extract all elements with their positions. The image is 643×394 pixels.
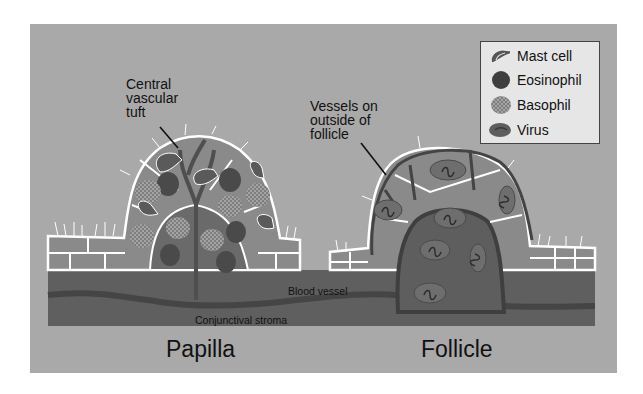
legend-item-basophil: Basophil: [489, 94, 571, 116]
legend-label: Eosinophil: [517, 72, 582, 88]
legend-item-mast-cell: Mast cell: [489, 45, 572, 67]
virus-icon: [489, 120, 513, 140]
legend: Mast cell Eosinophil Basophil Virus: [480, 41, 600, 144]
legend-item-eosinophil: Eosinophil: [489, 69, 582, 91]
legend-item-virus: Virus: [489, 119, 549, 141]
mast-cell-icon: [489, 46, 513, 66]
blood-vessel-label: Blood vessel: [288, 286, 348, 297]
eosinophil-icon: [489, 70, 513, 90]
legend-label: Virus: [517, 122, 549, 138]
central-vascular-tuft-label: Central vascular tuft: [126, 77, 178, 119]
papilla-label: Papilla: [166, 338, 235, 361]
legend-label: Basophil: [517, 97, 571, 113]
legend-label: Mast cell: [517, 48, 572, 64]
vessels-outside-follicle-label: Vessels on outside of follicle: [310, 99, 378, 141]
follicle-label: Follicle: [421, 338, 493, 361]
conjunctival-reaction-diagram: Central vascular tuft Vessels on outside…: [0, 0, 643, 394]
basophil-icon: [489, 95, 513, 115]
conjunctival-stroma-label: Conjunctival stroma: [195, 315, 287, 326]
